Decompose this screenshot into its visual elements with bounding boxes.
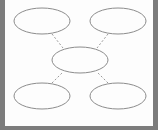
node-bottom-right[interactable] [90, 83, 146, 109]
connector-bottom-left-to-center [52, 72, 63, 83]
node-bottom-left[interactable] [14, 83, 70, 109]
hub-spoke-diagram [0, 0, 158, 130]
node-top-left[interactable] [14, 8, 70, 34]
connector-top-right-to-center [97, 34, 108, 48]
node-top-right[interactable] [90, 8, 146, 34]
connector-top-left-to-center [52, 34, 63, 48]
connector-bottom-right-to-center [97, 72, 108, 83]
node-center[interactable] [52, 47, 108, 73]
nodes [14, 8, 146, 109]
